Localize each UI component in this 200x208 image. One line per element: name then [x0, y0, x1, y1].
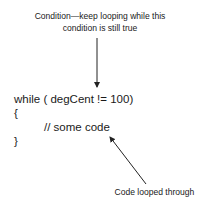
code-close-brace: }: [14, 134, 18, 148]
code-comment-line: // some code: [44, 120, 110, 134]
code-open-brace: {: [14, 106, 18, 120]
body-annotation: Code looped through: [115, 186, 196, 198]
code-while-line: while ( degCent != 100): [14, 92, 133, 106]
body-arrow-icon: [110, 137, 146, 184]
